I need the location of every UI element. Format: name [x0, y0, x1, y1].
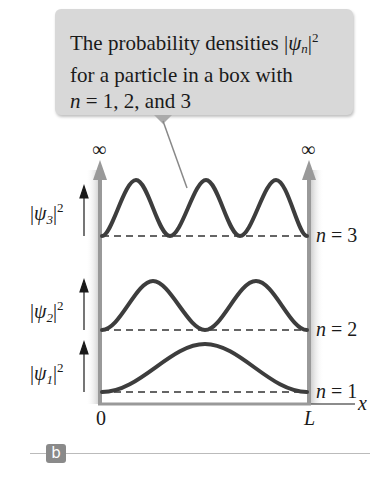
curve-n1: [102, 344, 307, 392]
superscript: 2: [57, 200, 64, 215]
infinity-left-label: ∞: [92, 138, 106, 161]
origin-label: 0: [96, 407, 106, 430]
left-wall-shade: [86, 170, 100, 404]
panel-label-b: b: [46, 444, 66, 463]
n-variable: n: [316, 318, 326, 340]
subscript: 2: [46, 310, 53, 325]
psi3-label: |ψ3|2: [30, 200, 63, 228]
n1-label: n = 1: [316, 380, 357, 403]
x-axis-label: x: [358, 392, 367, 415]
psi2-label: |ψ2|2: [30, 298, 63, 326]
infinity-right-label: ∞: [301, 138, 315, 161]
callout-leader-line: [163, 121, 187, 188]
probability-curves: [102, 180, 307, 392]
n-value: = 2: [326, 318, 357, 340]
n-variable: n: [316, 224, 326, 246]
right-wall-shade: [310, 170, 324, 404]
n3-label: n = 3: [316, 224, 357, 247]
psi-symbol: ψ: [34, 300, 46, 322]
baselines: [102, 236, 307, 392]
psi1-label: |ψ1|2: [30, 360, 63, 388]
superscript: 2: [57, 360, 64, 375]
L-label: L: [304, 407, 315, 430]
curve-n3: [102, 180, 307, 236]
n-value: = 3: [326, 224, 357, 246]
panel-divider: [30, 453, 370, 454]
n-value: = 1: [326, 380, 357, 402]
n-variable: n: [316, 380, 326, 402]
curve-n2: [102, 281, 307, 330]
subscript: 1: [46, 372, 53, 387]
particle-in-box-diagram: [0, 0, 390, 499]
n2-label: n = 2: [316, 318, 357, 341]
subscript: 3: [46, 212, 53, 227]
psi-symbol: ψ: [34, 202, 46, 224]
superscript: 2: [57, 298, 64, 313]
psi-symbol: ψ: [34, 362, 46, 384]
